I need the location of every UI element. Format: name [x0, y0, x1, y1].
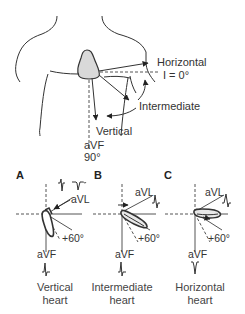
- panel-a-ecg-avf: [42, 263, 50, 276]
- intermediate-arrow: [99, 75, 129, 100]
- panel-b-avl-label: aVL: [135, 186, 154, 198]
- torso-left-chest: [50, 71, 78, 74]
- label-lead-i: I = 0°: [163, 69, 189, 81]
- panel-a-avl-label: aVL: [71, 193, 90, 205]
- panel-c-avf-label: aVF: [188, 248, 207, 260]
- panel-b-avf-label: aVF: [115, 248, 134, 260]
- curved-arrow-left: [107, 108, 136, 116]
- torso-left-side: [40, 74, 48, 136]
- heart-axis-diagram: Horizontal I = 0° Intermediate Vertical …: [0, 0, 245, 314]
- panel-c-plus60-label: +60°: [208, 232, 230, 244]
- vertical-arrow: [92, 78, 96, 120]
- label-intermediate: Intermediate: [139, 100, 200, 112]
- panel-c-caption-2: heart: [187, 294, 212, 306]
- panel-a-caption-1: Vertical: [37, 281, 73, 293]
- panel-c-caption-1: Horizontal: [175, 281, 225, 293]
- panel-c-letter: C: [164, 169, 172, 181]
- panel-b-caption-1: Intermediate: [91, 281, 152, 293]
- label-avf: aVF: [84, 139, 104, 151]
- panel-a-caption-2: heart: [42, 294, 67, 306]
- panel-b-caption-2: heart: [109, 294, 134, 306]
- panel-c: C aVL +60° aVF Horizontal heart: [164, 169, 231, 306]
- torso-right-armpit: [130, 76, 136, 93]
- panel-b-letter: B: [94, 169, 102, 181]
- label-avf-angle: 90°: [84, 151, 101, 163]
- panel-c-avl-label: aVL: [205, 186, 224, 198]
- torso-right-chest: [104, 76, 130, 78]
- panel-c-ecg-avf: [191, 262, 199, 274]
- panel-a-avf-label: aVF: [37, 248, 56, 260]
- curved-arrow-up: [138, 80, 145, 100]
- panel-b-plus60-label: +60°: [138, 232, 160, 244]
- panel-a-letter: A: [16, 169, 24, 181]
- panel-b-ecg-avf: [118, 262, 126, 276]
- label-vertical: Vertical: [96, 125, 132, 137]
- horizontal-arrow: [99, 63, 148, 71]
- panel-b-avl-line: [122, 196, 152, 212]
- panel-b: B aVL +60° aVF Intermediate heart: [91, 169, 160, 306]
- panel-a-ecg-avl: [72, 182, 86, 190]
- panel-a-avl-arrow: [54, 200, 70, 209]
- heart-shape: [78, 50, 100, 79]
- panel-c-heart: [194, 209, 221, 218]
- panel-a-ecg-lead1: [58, 179, 65, 191]
- panel-a: A aVL +60° aVF Vertical heart: [16, 169, 90, 306]
- panel-a-plus60-label: +60°: [62, 232, 84, 244]
- label-horizontal: Horizontal: [157, 56, 207, 68]
- panel-a-heart: [42, 211, 54, 237]
- torso-neck-left: [16, 16, 57, 82]
